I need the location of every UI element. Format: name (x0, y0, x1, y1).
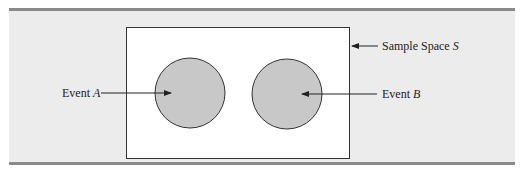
sample-space-text: Sample Space (382, 39, 450, 53)
sample-space-label: Sample Space S (382, 39, 459, 53)
event-a-text: Event (62, 86, 90, 100)
event-a-label: Event A (62, 86, 100, 100)
event-b-text: Event (382, 87, 410, 101)
sample-space-symbol: S (453, 39, 459, 53)
event-b-symbol: B (413, 87, 420, 101)
event-a-symbol: A (93, 86, 100, 100)
event-b-label: Event B (382, 87, 420, 101)
